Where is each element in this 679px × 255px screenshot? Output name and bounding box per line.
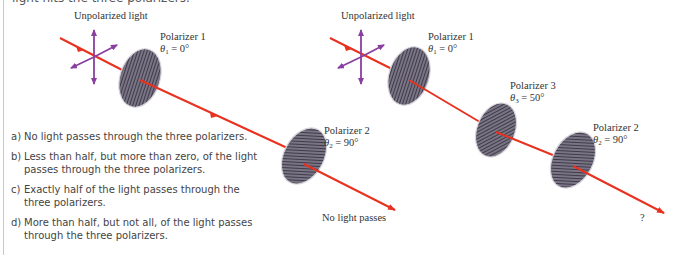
option-c[interactable]: c) Exactly half of the light passes thro… bbox=[11, 183, 261, 209]
unpolarized-light-icon bbox=[338, 30, 384, 84]
option-key: b) bbox=[11, 150, 24, 176]
left-polarizer-1-label: Polarizer 1 θ1 = 0° bbox=[160, 31, 206, 58]
output-ray bbox=[304, 164, 395, 210]
polarizer-name: Polarizer 2 bbox=[593, 122, 639, 134]
option-key: a) bbox=[11, 130, 24, 143]
polarizer-angle: θ1 = 0° bbox=[160, 43, 206, 58]
right-polarizer-3-label: Polarizer 3 θ3 = 50° bbox=[510, 80, 556, 107]
option-b[interactable]: b) Less than half, but more than zero, o… bbox=[11, 150, 261, 176]
option-text: Exactly half of the light passes through… bbox=[24, 183, 261, 209]
option-key: c) bbox=[11, 183, 24, 209]
option-text: No light passes through the three polari… bbox=[24, 130, 261, 143]
option-key: d) bbox=[11, 216, 24, 242]
option-d[interactable]: d) More than half, but not all, of the l… bbox=[11, 216, 261, 242]
polarizer-angle: θ3 = 50° bbox=[510, 92, 556, 107]
option-text: More than half, but not all, of the ligh… bbox=[24, 216, 261, 242]
polarizer-name: Polarizer 1 bbox=[160, 31, 206, 43]
left-polarizer-2-label: Polarizer 2 θ2 = 90° bbox=[324, 125, 370, 152]
left-source-label: Unpolarized light bbox=[74, 10, 148, 22]
right-polarizer-1-label: Polarizer 1 θ1 = 0° bbox=[428, 31, 474, 58]
option-text: Less than half, but more than zero, of t… bbox=[24, 150, 261, 176]
polarizer-angle: θ1 = 0° bbox=[428, 43, 474, 58]
option-a[interactable]: a) No light passes through the three pol… bbox=[11, 130, 261, 143]
polarizer-angle: θ2 = 90° bbox=[593, 134, 639, 149]
transmitted-ray-1 bbox=[409, 80, 490, 128]
left-result-label: No light passes bbox=[322, 212, 386, 224]
answer-options: a) No light passes through the three pol… bbox=[11, 130, 261, 249]
polarizer-name: Polarizer 1 bbox=[428, 31, 474, 43]
unpolarized-light-icon bbox=[71, 30, 117, 84]
polarizer-angle: θ2 = 90° bbox=[324, 137, 370, 152]
polarizer-name: Polarizer 3 bbox=[510, 80, 556, 92]
right-polarizer-2-label: Polarizer 2 θ2 = 90° bbox=[593, 122, 639, 149]
polarizer-name: Polarizer 2 bbox=[324, 125, 370, 137]
right-result-label: ? bbox=[640, 212, 645, 224]
right-source-label: Unpolarized light bbox=[341, 10, 415, 22]
output-ray bbox=[573, 166, 664, 213]
